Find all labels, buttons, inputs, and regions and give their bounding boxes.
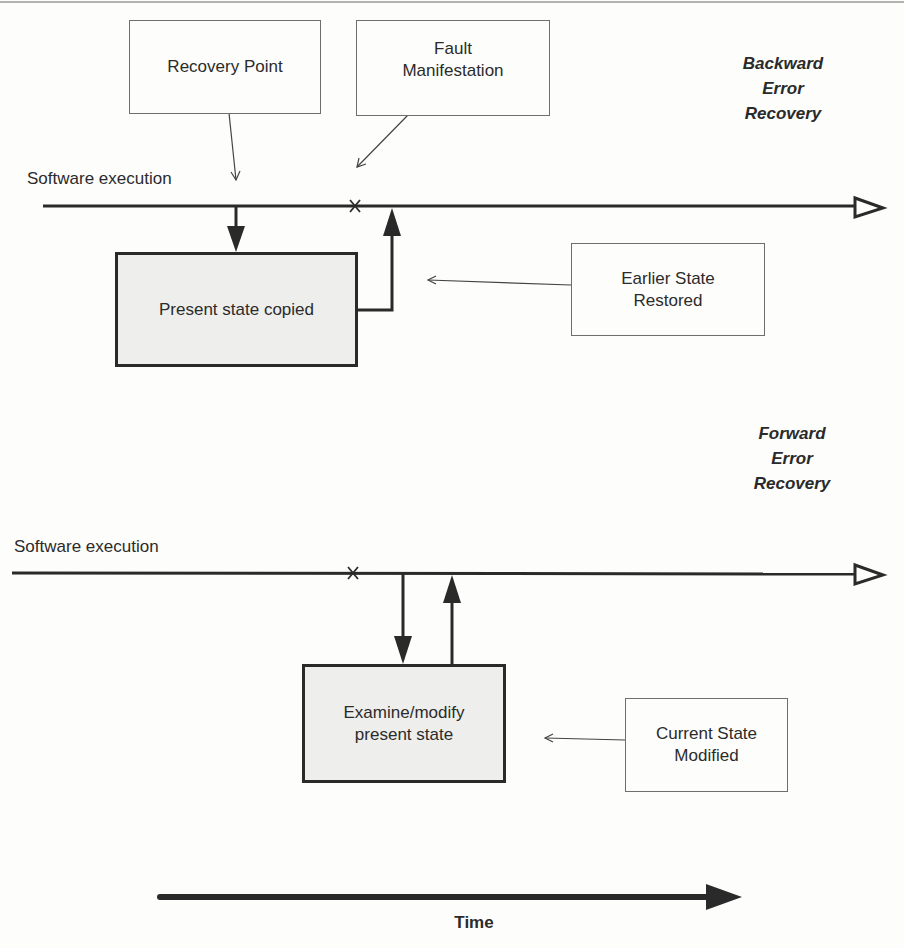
examine-state-arrow	[394, 573, 412, 664]
backward-execution-label: Software execution	[27, 169, 172, 189]
present-state-copied-label: Present state copied	[159, 299, 314, 321]
current-state-pointer	[545, 734, 625, 742]
fault-manifestation-box: Fault Manifestation	[356, 20, 550, 116]
earlier-state-restored-label: Earlier State Restored	[621, 268, 715, 312]
forward-timeline	[12, 565, 883, 584]
timeline-arrowhead-icon	[855, 198, 883, 217]
present-state-copied-box: Present state copied	[115, 252, 358, 367]
recovery-point-pointer	[229, 113, 240, 180]
time-axis-arrow	[160, 884, 742, 910]
forward-error-recovery-title: Forward Error Recovery	[722, 421, 862, 496]
recovery-point-box: Recovery Point	[129, 20, 321, 114]
fault-manifestation-pointer	[357, 115, 408, 167]
time-axis-label: Time	[434, 912, 514, 933]
restore-state-arrow	[357, 208, 401, 310]
examine-modify-label: Examine/modify present state	[344, 702, 465, 746]
current-state-modified-box: Current State Modified	[625, 698, 788, 792]
copy-state-arrow	[227, 206, 245, 252]
fault-manifestation-label: Fault Manifestation	[402, 38, 503, 82]
earlier-state-pointer	[428, 276, 571, 285]
earlier-state-restored-box: Earlier State Restored	[571, 243, 765, 336]
examine-modify-box: Examine/modify present state	[302, 664, 506, 783]
forward-execution-label: Software execution	[14, 537, 159, 557]
backward-timeline	[43, 198, 883, 217]
backward-error-recovery-title: Backward Error Recovery	[713, 51, 853, 126]
timeline-arrowhead-icon	[855, 565, 883, 584]
recovery-point-label: Recovery Point	[167, 56, 282, 78]
current-state-modified-label: Current State Modified	[656, 723, 757, 767]
resume-execution-arrow	[443, 575, 461, 664]
